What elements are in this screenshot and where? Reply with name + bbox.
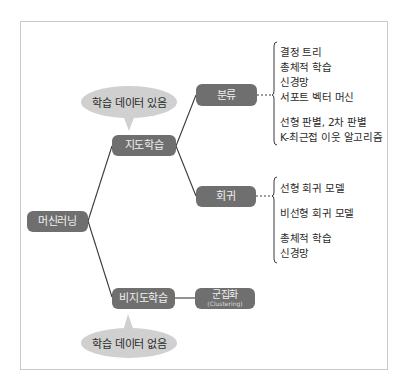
list-item: 총체적 학습 — [280, 231, 332, 245]
node-classification-label: 분류 — [217, 90, 236, 101]
list-item: 비선형 회귀 모델 — [280, 206, 354, 220]
node-supervised-learning: 지도학습 — [112, 135, 176, 156]
node-supervised-learning-label: 지도학습 — [125, 140, 164, 151]
list-item: 신경망 — [280, 75, 309, 89]
bubble-labeled-data-text: 학습 데이터 있음 — [82, 86, 177, 118]
node-regression-label: 회귀 — [216, 191, 235, 202]
list-item: 서포트 벡터 머신 — [280, 90, 354, 104]
list-item: 선형 회귀 모델 — [280, 181, 344, 195]
node-regression: 회귀 — [196, 186, 256, 207]
list-item: K-최근접 이웃 알고리즘 — [280, 130, 382, 144]
node-machine-learning: 머신러닝 — [27, 211, 88, 232]
list-item: 결정 트리 — [280, 45, 322, 59]
node-classification: 분류 — [196, 84, 257, 106]
bubble-unlabeled-data-text: 학습 데이터 없음 — [82, 328, 177, 358]
list-item: 총체적 학습 — [280, 60, 332, 74]
node-clustering: 군집화 (Clustering) — [195, 288, 255, 309]
list-item: 신경망 — [280, 246, 309, 260]
list-item: 선형 판별, 2차 판별 — [280, 115, 366, 129]
node-unsupervised-learning-label: 비지도학습 — [119, 293, 168, 304]
node-unsupervised-learning: 비지도학습 — [112, 288, 175, 309]
node-clustering-sublabel: (Clustering) — [207, 301, 242, 307]
node-clustering-label: 군집화 — [212, 290, 238, 300]
node-machine-learning-label: 머신러닝 — [38, 216, 77, 227]
